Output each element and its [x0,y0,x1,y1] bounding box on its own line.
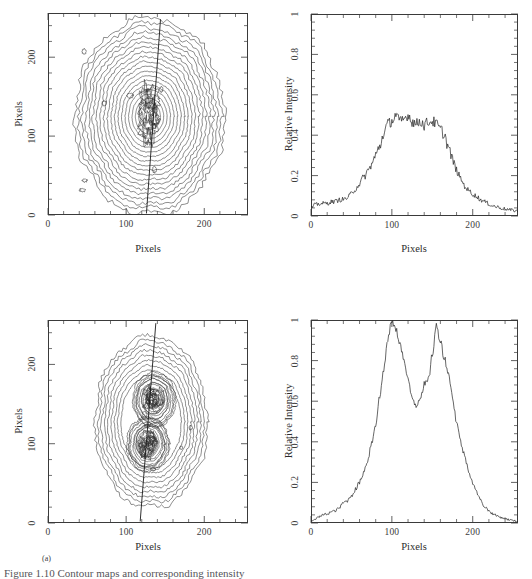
panel-bottom-left-contour-plot [48,320,248,523]
y-tick-label: 0 [27,213,37,218]
y-tick-label: 0 [290,214,300,219]
y-tick-label: 0.8 [290,48,300,60]
subfigure-label: (a) [42,554,51,563]
y-axis-title-bottom-right: Relative Intensity [283,384,294,458]
y-axis-title-bottom-left: Pixels [13,408,24,434]
x-tick-label: 200 [465,527,480,537]
x-tick-label: 200 [197,527,212,537]
y-axis-title-top-left: Pixels [13,101,24,127]
y-tick-label: 100 [27,129,37,144]
y-tick-label: 0.2 [290,169,300,181]
y-tick-label: 1 [290,12,300,17]
figure-caption: Figure 1.10 Contour maps and correspondi… [4,567,528,579]
x-tick-label: 200 [465,220,480,230]
y-tick-label: 200 [27,357,37,372]
x-tick-label: 0 [46,527,51,537]
y-tick-label: 0.2 [290,476,300,488]
x-tick-label: 0 [309,527,314,537]
x-tick-label: 100 [384,527,399,537]
panel-top-right-profile-plot [311,14,518,216]
y-tick-label: 0 [27,521,37,526]
x-axis-title-top-left: Pixels [135,243,161,254]
x-tick-label: 0 [309,220,314,230]
x-axis-title-top-right: Pixels [401,243,427,254]
panel-bottom-right-profile-plot [311,320,518,523]
y-tick-label: 200 [27,50,37,65]
x-tick-label: 100 [384,220,399,230]
profile-canvas-bottom-right [311,320,518,523]
x-tick-label: 200 [197,219,212,229]
x-tick-label: 100 [119,527,134,537]
x-tick-label: 0 [46,219,51,229]
x-axis-title-bottom-right: Pixels [401,541,427,552]
y-tick-label: 1 [290,318,300,323]
y-tick-label: 0 [290,521,300,526]
y-axis-title-top-right: Relative Intensity [283,77,294,151]
profile-canvas-top-right [311,14,518,216]
contour-canvas-bottom-left [48,320,248,523]
panel-top-left-contour-plot [48,13,248,215]
x-tick-label: 100 [119,219,134,229]
contour-canvas-top-left [48,13,248,215]
y-tick-label: 100 [27,436,37,451]
x-axis-title-bottom-left: Pixels [135,541,161,552]
y-tick-label: 0.8 [290,354,300,366]
